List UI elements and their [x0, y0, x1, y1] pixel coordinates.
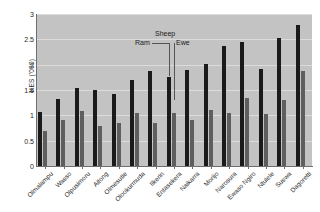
bar-ewe: [61, 120, 65, 166]
bar-group: [165, 14, 183, 166]
bar-ram: [204, 64, 208, 166]
bar-ram: [130, 80, 134, 166]
bar-ram: [112, 94, 116, 166]
y-tick-label: 2: [16, 61, 34, 68]
x-tick-mark: [248, 166, 249, 169]
x-tick-mark: [156, 166, 157, 169]
y-tick-label: 1: [16, 112, 34, 119]
x-tick-mark: [303, 166, 304, 169]
bar-group: [294, 14, 312, 166]
bar-ewe: [190, 120, 194, 166]
bar-ram: [222, 46, 226, 166]
bar-group: [238, 14, 256, 166]
bar-ewe: [172, 113, 176, 166]
bar-ram: [296, 25, 300, 166]
y-tick-label: 0: [16, 163, 34, 170]
bar-ewe: [98, 126, 102, 166]
bar-group: [220, 14, 238, 166]
x-tick-mark: [137, 166, 138, 169]
x-tick-mark: [266, 166, 267, 169]
x-tick-mark: [64, 166, 65, 169]
bar-ewe: [153, 123, 157, 166]
bar-ram: [148, 71, 152, 166]
bar-ewe: [301, 71, 305, 166]
bar-ram: [240, 42, 244, 166]
bar-group: [110, 14, 128, 166]
x-tick-mark: [174, 166, 175, 169]
x-tick-mark: [211, 166, 212, 169]
bar-ewe: [227, 113, 231, 166]
plot-area: [36, 14, 312, 166]
bar-ram: [56, 99, 60, 166]
bar-ram: [75, 88, 79, 166]
bar-group: [36, 14, 54, 166]
y-tick-label: 2.5: [16, 36, 34, 43]
bar-chart: KES ('000) 00.511.522.53 OlmalampuWassoO…: [0, 0, 320, 212]
bar-ewe: [209, 110, 213, 166]
y-tick-label: 0.5: [16, 137, 34, 144]
bar-group: [183, 14, 201, 166]
bar-ram: [277, 38, 281, 166]
bar-ewe: [43, 131, 47, 166]
x-tick-label: Ntulele: [256, 170, 275, 189]
x-tick-mark: [45, 166, 46, 169]
bar-ewe: [135, 113, 139, 166]
bar-group: [73, 14, 91, 166]
bar-ram: [259, 69, 263, 166]
bar-ram: [167, 77, 171, 166]
y-tick-label: 3: [16, 11, 34, 18]
bar-ewe: [264, 114, 268, 166]
x-tick-mark: [284, 166, 285, 169]
bar-group: [54, 14, 72, 166]
bar-group: [128, 14, 146, 166]
x-tick-mark: [100, 166, 101, 169]
bar-group: [146, 14, 164, 166]
y-tick-label: 1.5: [16, 87, 34, 94]
bar-ewe: [245, 98, 249, 166]
x-tick-mark: [119, 166, 120, 169]
bar-group: [257, 14, 275, 166]
bar-ewe: [282, 100, 286, 166]
y-axis-ticks: 00.511.522.53: [16, 0, 34, 212]
bar-ewe: [117, 123, 121, 166]
x-tick-label-text: Ntulele: [256, 170, 275, 189]
bar-ram: [93, 90, 97, 167]
bar-group: [91, 14, 109, 166]
bar-ewe: [80, 111, 84, 166]
x-tick-mark: [82, 166, 83, 169]
x-tick-mark: [229, 166, 230, 169]
y-axis-line: [36, 14, 37, 167]
bar-ram: [185, 70, 189, 166]
bar-group: [202, 14, 220, 166]
x-tick-mark: [192, 166, 193, 169]
bar-group: [275, 14, 293, 166]
bar-ram: [38, 112, 42, 166]
